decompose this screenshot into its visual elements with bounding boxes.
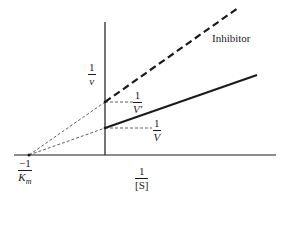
intercept-label-v-prime: 1 V′ xyxy=(133,90,142,115)
line-no-inhibitor xyxy=(105,75,257,128)
intercept-point-v-prime xyxy=(104,101,107,104)
x-intercept-label: −1 Km xyxy=(18,158,32,187)
intercept-label-v: 1 V xyxy=(153,118,161,143)
x-axis-label: 1 [S] xyxy=(135,166,148,191)
extrapolation-no-inhibitor xyxy=(29,128,105,155)
y-axis-label: 1 v xyxy=(88,62,96,87)
inhibitor-label: Inhibitor xyxy=(212,32,251,44)
intercept-point-v xyxy=(104,127,107,130)
extrapolation-inhibitor xyxy=(29,102,105,155)
